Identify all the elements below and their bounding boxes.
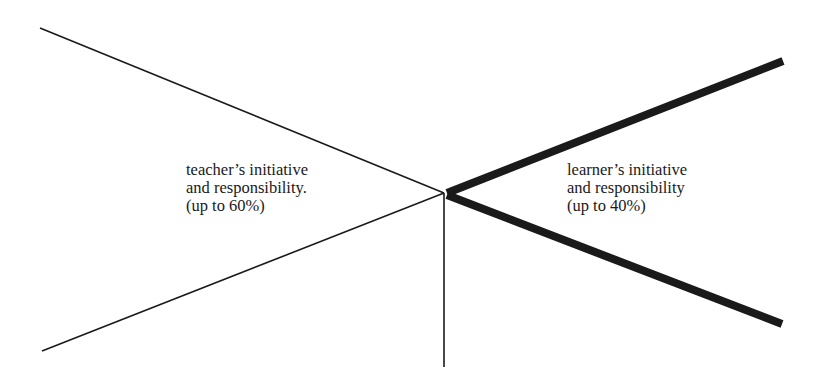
learner-label-line-1: learner’s initiative xyxy=(567,161,687,179)
initiative-diagram xyxy=(0,0,827,367)
teacher-label-line-1: teacher’s initiative xyxy=(186,161,308,179)
learner-label: learner’s initiative and responsibility … xyxy=(567,161,687,215)
teacher-lower-line xyxy=(42,193,444,351)
teacher-label-line-3: (up to 60%) xyxy=(186,197,308,215)
teacher-label-line-2: and responsibility. xyxy=(186,179,308,197)
teacher-label: teacher’s initiative and responsibility.… xyxy=(186,161,308,215)
learner-label-line-2: and responsibility xyxy=(567,179,687,197)
learner-label-line-3: (up to 40%) xyxy=(567,197,687,215)
